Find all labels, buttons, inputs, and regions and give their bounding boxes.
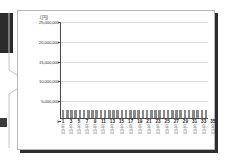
x-axis-tick-suffix-ordinal: 目 — [147, 129, 151, 134]
bar[interactable] — [154, 110, 157, 118]
chart-figure: (円) 05,000,00010,000,00015,000,00020,000… — [18, 11, 214, 149]
bar[interactable] — [70, 110, 73, 118]
y-axis-tick — [58, 101, 61, 102]
bar[interactable] — [146, 110, 149, 118]
bar[interactable] — [137, 110, 140, 118]
y-axis-tick — [58, 22, 61, 23]
bar[interactable] — [87, 110, 90, 118]
bar[interactable] — [83, 110, 86, 118]
bar[interactable] — [196, 110, 199, 118]
x-axis-tick-suffix-ordinal: 目 — [129, 129, 133, 134]
bar[interactable] — [158, 110, 161, 118]
bar[interactable] — [116, 110, 119, 118]
bar-slot — [204, 22, 208, 118]
bar[interactable] — [104, 110, 107, 118]
bar[interactable] — [108, 110, 111, 118]
bar[interactable] — [163, 110, 166, 118]
bar[interactable] — [150, 110, 153, 118]
bar[interactable] — [62, 110, 65, 118]
x-axis-tick-suffix-ordinal: 目 — [183, 129, 187, 134]
x-axis-labels: 1年目年目3年目年目5年目年目7年目年目9年目年目11年目年目13年目年目15年… — [61, 119, 208, 147]
bar[interactable] — [112, 110, 115, 118]
bar[interactable] — [79, 110, 82, 118]
chart-card: (円) 05,000,00010,000,00015,000,00020,000… — [17, 10, 215, 150]
bar[interactable] — [201, 110, 204, 118]
bar[interactable] — [205, 110, 208, 118]
y-axis-tick — [58, 62, 61, 63]
bar[interactable] — [167, 110, 170, 118]
x-axis-tick-suffix-ordinal: 目 — [211, 129, 215, 134]
bar[interactable] — [179, 110, 182, 118]
y-axis-label-column: 05,000,00010,000,00015,000,00020,000,000… — [18, 11, 59, 149]
x-axis-tick-group: 35年目 — [210, 119, 215, 147]
bar[interactable] — [121, 110, 124, 118]
bar[interactable] — [100, 110, 103, 118]
x-axis-tick-suffix-ordinal: 目 — [101, 129, 105, 134]
y-axis-tick-label: 15,000,000 — [39, 59, 59, 64]
bar[interactable] — [133, 110, 136, 118]
y-axis-tick-label: 25,000,000 — [39, 20, 59, 25]
plot-area — [60, 22, 208, 119]
y-axis-tick-label: 20,000,000 — [39, 39, 59, 44]
y-axis-tick — [58, 81, 61, 82]
x-axis-tick-suffix-ordinal: 目 — [165, 129, 169, 134]
cropped-dark-mark — [0, 118, 7, 127]
bar[interactable] — [95, 110, 98, 118]
x-axis-tick-suffix-ordinal: 目 — [156, 129, 160, 134]
y-axis-tick — [58, 42, 61, 43]
bar-series — [61, 22, 208, 118]
bar[interactable] — [192, 110, 195, 118]
bar[interactable] — [66, 110, 69, 118]
y-axis-tick-label: 5,000,000 — [41, 99, 59, 104]
bar[interactable] — [129, 110, 132, 118]
bar[interactable] — [175, 110, 178, 118]
x-axis-tick-suffix-ordinal: 目 — [120, 129, 124, 134]
bar[interactable] — [188, 110, 191, 118]
bar[interactable] — [74, 110, 77, 118]
bar[interactable] — [125, 110, 128, 118]
x-axis-tick-suffix-ordinal: 目 — [202, 129, 206, 134]
bar[interactable] — [184, 110, 187, 118]
bar[interactable] — [142, 110, 145, 118]
x-axis-tick-suffix-ordinal: 目 — [174, 129, 178, 134]
x-axis-tick-suffix-ordinal: 目 — [193, 129, 197, 134]
x-axis-tick-suffix-ordinal: 目 — [110, 129, 114, 134]
bar[interactable] — [91, 110, 94, 118]
x-axis-tick-suffix-ordinal: 目 — [138, 129, 142, 134]
y-axis-tick-label: 10,000,000 — [39, 79, 59, 84]
bar[interactable] — [171, 110, 174, 118]
